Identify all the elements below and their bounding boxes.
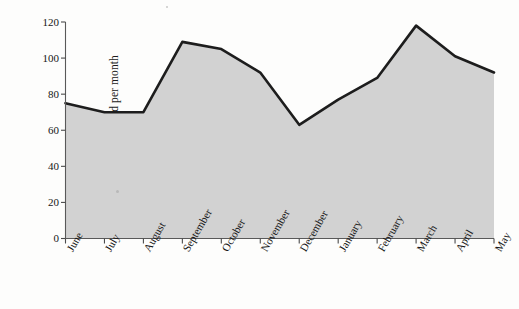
scan-speck — [166, 6, 168, 8]
chart-plot-area — [0, 0, 519, 309]
chart-figure: Analyst Demand per month 120 100 80 60 4… — [0, 0, 519, 309]
y-tick-marks — [61, 22, 66, 239]
x-tick-marks — [66, 239, 495, 244]
scan-speck — [116, 190, 119, 193]
area-fill — [66, 26, 495, 239]
